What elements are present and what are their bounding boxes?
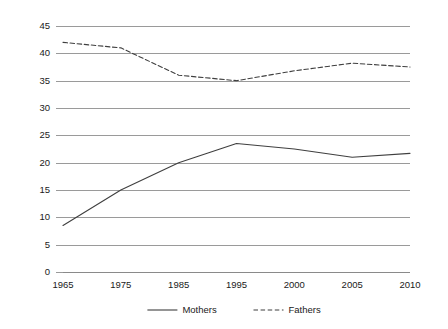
x-tick-label-1965: 1965 [52,279,73,290]
x-tick-label-1985: 1985 [168,279,189,290]
x-axis-tick-labels: 1965197519851995200020052010 [52,279,420,290]
y-tick-label-15: 15 [39,184,50,195]
y-tick-label-0: 0 [45,266,50,277]
chart-canvas: 051015202530354045 196519751985199520002… [0,0,448,329]
y-tick-label-25: 25 [39,129,50,140]
y-axis-tick-labels: 051015202530354045 [39,20,50,277]
legend-label-mothers: Mothers [182,304,217,315]
legend-label-fathers: Fathers [289,304,321,315]
series-line-fathers [63,42,410,80]
y-tick-label-20: 20 [39,157,50,168]
line-chart: 051015202530354045 196519751985199520002… [0,0,448,329]
x-tick-label-2005: 2005 [342,279,363,290]
y-tick-label-5: 5 [45,239,50,250]
y-tick-label-40: 40 [39,47,50,58]
data-series-group [63,42,410,225]
x-tick-label-1995: 1995 [226,279,247,290]
chart-legend: MothersFathers [147,304,321,315]
x-tick-label-2010: 2010 [399,279,420,290]
x-tick-label-1975: 1975 [110,279,131,290]
series-line-mothers [63,144,410,226]
x-tick-label-2000: 2000 [284,279,305,290]
y-tick-label-30: 30 [39,102,50,113]
y-tick-label-35: 35 [39,75,50,86]
y-tick-label-45: 45 [39,20,50,31]
y-tick-label-10: 10 [39,211,50,222]
